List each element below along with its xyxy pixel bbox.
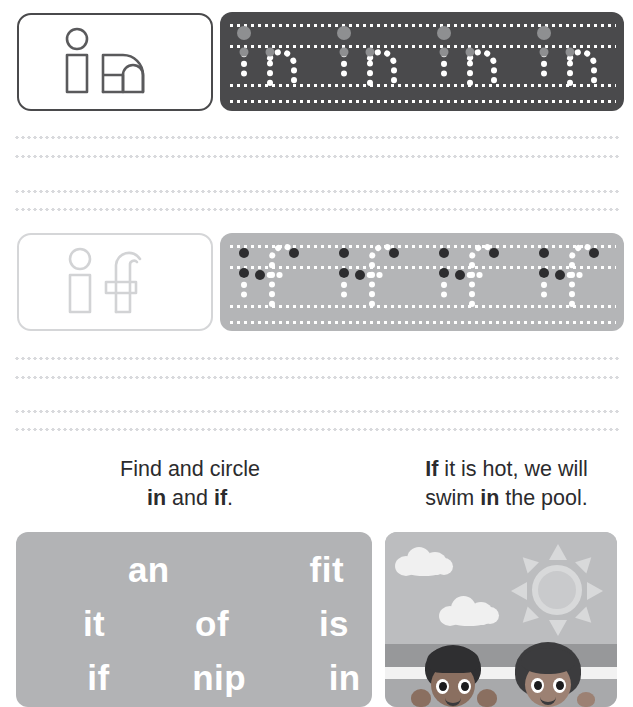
trace-word	[426, 12, 518, 111]
word-search-cell[interactable]: fit	[310, 550, 345, 590]
hair-front	[427, 647, 479, 673]
outline-word-if	[60, 246, 170, 318]
practice-line	[14, 136, 619, 139]
child-left	[411, 645, 497, 707]
word-search-panel[interactable]: an fit it of is if nip in	[16, 532, 372, 707]
start-dot	[237, 26, 251, 40]
dotted-word-in	[326, 12, 418, 111]
sentence-line-2-prefix: swim	[425, 486, 480, 510]
trace-word	[526, 233, 618, 331]
instruction-line-1: Find and circle	[0, 455, 380, 484]
word-search-cell[interactable]: in	[329, 658, 361, 698]
instruction-sentence: If it is hot, we will swim in the pool.	[380, 455, 633, 513]
trace-row-in	[0, 0, 633, 120]
hand	[477, 689, 497, 707]
outline-word-in	[55, 26, 175, 98]
word-search-row: an fit	[16, 550, 372, 590]
trace-word	[226, 12, 318, 111]
sentence-line-1: If it is hot, we will	[380, 455, 633, 484]
practice-line	[14, 410, 619, 413]
model-letter-box-in	[17, 13, 213, 111]
dotted-word-if	[326, 233, 418, 331]
dotted-word-in	[226, 12, 318, 111]
bangs	[521, 648, 575, 674]
word-search-row: if nip in	[16, 658, 372, 698]
instruction-line-2: in and if.	[0, 484, 380, 513]
worksheet-page: Find and circle in and if. If it is hot,…	[0, 0, 633, 707]
word-search-row: it of is	[16, 604, 372, 644]
word-search-cell[interactable]: is	[319, 604, 349, 644]
sentence-word-in: in	[480, 486, 499, 510]
target-word-in: in	[147, 486, 166, 510]
target-word-if: if	[214, 486, 227, 510]
practice-line	[14, 190, 619, 193]
hand	[411, 689, 431, 707]
pupil	[556, 681, 564, 690]
sun-icon	[511, 544, 603, 636]
dotted-word-in	[526, 12, 618, 111]
practice-line	[14, 428, 619, 431]
pool-illustration	[385, 532, 617, 707]
sentence-word-if: If	[425, 457, 438, 481]
trace-word	[426, 233, 518, 331]
instruction-find-circle: Find and circle in and if.	[0, 455, 380, 513]
sentence-line-2-rest: the pool.	[499, 486, 587, 510]
sentence-line-2: swim in the pool.	[380, 484, 633, 513]
pupil	[439, 682, 447, 691]
trace-panel-in	[220, 12, 624, 111]
dotted-word-if	[426, 233, 518, 331]
start-dot	[240, 48, 249, 57]
practice-line	[14, 155, 619, 158]
trace-word	[226, 233, 318, 331]
word-search-cell[interactable]: an	[128, 550, 170, 590]
hand	[577, 692, 595, 707]
word-search-cell[interactable]: if	[87, 658, 109, 698]
practice-line	[14, 357, 619, 360]
start-dot	[266, 48, 275, 57]
pupil	[534, 681, 542, 690]
practice-line	[14, 376, 619, 379]
trace-word	[326, 233, 418, 331]
period-text: .	[227, 486, 233, 510]
word-search-cell[interactable]: of	[195, 604, 229, 644]
sentence-line-1-rest: it is hot, we will	[438, 457, 587, 481]
practice-line	[14, 208, 619, 211]
trace-row-if	[0, 233, 633, 333]
trace-words-if	[220, 233, 624, 331]
word-search-cell[interactable]: it	[83, 604, 105, 644]
cloud-icon	[439, 594, 501, 626]
instructions-area: Find and circle in and if. If it is hot,…	[0, 455, 633, 513]
model-letter-box-if	[17, 233, 213, 331]
cloud-icon	[395, 546, 455, 576]
trace-panel-if	[220, 233, 624, 331]
word-search-cell[interactable]: nip	[192, 658, 246, 698]
pupil	[461, 682, 469, 691]
dotted-word-in	[426, 12, 518, 111]
dotted-word-if	[226, 233, 318, 331]
child-right	[507, 642, 593, 707]
trace-words-in	[220, 12, 624, 111]
sun-core	[532, 565, 582, 615]
trace-word	[526, 12, 618, 111]
conjunction-text: and	[166, 486, 214, 510]
trace-word	[326, 12, 418, 111]
dotted-word-if	[526, 233, 618, 331]
